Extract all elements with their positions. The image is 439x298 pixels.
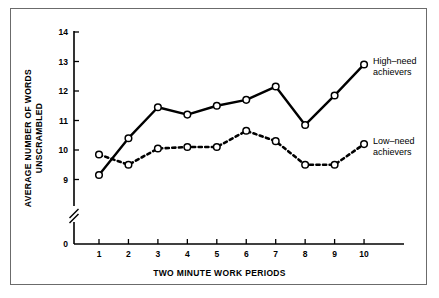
y-tick-label-12: 12 (46, 86, 68, 96)
data-point-high-need-3 (155, 104, 162, 111)
x-tick-label-8: 8 (295, 249, 315, 259)
data-point-high-need-8 (302, 122, 309, 129)
data-point-low-need-10 (361, 141, 368, 148)
data-point-low-need-5 (214, 144, 221, 151)
series-label-line-2: achievers (373, 147, 415, 158)
y-axis-title-line-2: UNSCRAMBLED (34, 103, 45, 173)
data-point-low-need-9 (331, 161, 338, 168)
x-tick-label-4: 4 (177, 249, 197, 259)
y-axis-title-line-1: AVERAGE NUMBER OF WORDS (23, 69, 34, 207)
data-point-high-need-7 (272, 83, 279, 90)
figure-container: 091011121314 12345678910 AVERAGE NUMBER … (0, 0, 439, 298)
x-tick-label-2: 2 (118, 249, 138, 259)
x-tick-label-10: 10 (354, 249, 374, 259)
x-tick-label-5: 5 (207, 249, 227, 259)
data-point-low-need-1 (96, 151, 103, 158)
data-point-low-need-8 (302, 161, 309, 168)
data-point-low-need-2 (125, 161, 132, 168)
data-point-high-need-1 (96, 172, 103, 179)
data-point-high-need-4 (184, 111, 191, 118)
y-axis-title: AVERAGE NUMBER OF WORDS UNSCRAMBLED (21, 38, 47, 238)
data-point-high-need-5 (214, 102, 221, 109)
x-axis-title: TWO MINUTE WORK PERIODS (0, 268, 439, 278)
series-label-line-2: achievers (373, 67, 417, 78)
y-axis-break-mark-1 (70, 209, 79, 218)
series-label-low-need: Low–needachievers (373, 136, 415, 158)
data-point-high-need-10 (361, 61, 368, 68)
series-label-line-1: High–need (373, 56, 417, 67)
series-label-line-1: Low–need (373, 136, 415, 147)
data-point-high-need-9 (331, 92, 338, 99)
x-tick-label-9: 9 (325, 249, 345, 259)
x-tick-label-1: 1 (89, 249, 109, 259)
data-series-group (96, 61, 368, 178)
data-point-low-need-4 (184, 144, 191, 151)
y-tick-label-14: 14 (46, 27, 68, 37)
y-tick-label-13: 13 (46, 57, 68, 67)
x-tick-label-6: 6 (236, 249, 256, 259)
x-tick-label-7: 7 (266, 249, 286, 259)
data-point-low-need-7 (272, 138, 279, 145)
x-tick-label-3: 3 (148, 249, 168, 259)
data-point-high-need-6 (243, 97, 250, 104)
y-tick-label-0: 0 (46, 239, 68, 249)
data-point-low-need-3 (155, 145, 162, 152)
series-line-low-need (99, 131, 364, 165)
data-point-low-need-6 (243, 128, 250, 135)
y-axis-break-mark-2 (70, 214, 79, 223)
data-point-high-need-2 (125, 135, 132, 142)
y-tick-label-11: 11 (46, 116, 68, 126)
y-tick-label-9: 9 (46, 175, 68, 185)
series-label-high-need: High–needachievers (373, 56, 417, 78)
y-tick-label-10: 10 (46, 145, 68, 155)
